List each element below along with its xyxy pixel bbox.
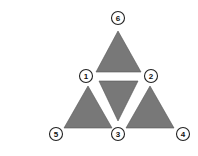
triangle-right: [126, 86, 174, 128]
node-label: 6: [116, 14, 121, 23]
node-6: 6: [112, 12, 125, 25]
node-5: 5: [50, 128, 63, 141]
node-label: 5: [54, 130, 59, 139]
node-3: 3: [112, 128, 125, 141]
node-label: 1: [84, 72, 89, 81]
node-label: 3: [116, 130, 121, 139]
node-1: 1: [80, 70, 93, 83]
node-4: 4: [177, 128, 190, 141]
node-label: 4: [181, 130, 186, 139]
node-2: 2: [145, 70, 158, 83]
triangle-diagram: 6 1 2 5 3 4: [0, 0, 198, 156]
node-label: 2: [149, 72, 154, 81]
triangle-top: [96, 31, 141, 72]
